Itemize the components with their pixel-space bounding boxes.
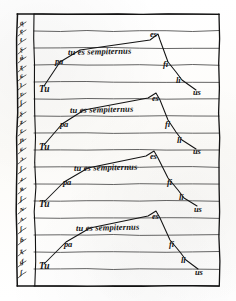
syllable-pa-system-3: pa [63, 178, 71, 187]
staff-rule [34, 133, 219, 134]
staff-rule [34, 269, 219, 270]
syllable-fi-system-4: fi [169, 240, 174, 249]
syllable-us-system-1: us [193, 88, 201, 97]
margin-gloss-mark: ʋ [20, 91, 24, 98]
syllable-tu-system-1: Tu [39, 85, 49, 95]
syllable-us-system-4: us [195, 268, 203, 277]
margin-gloss-mark: ǿ [19, 55, 24, 63]
margin-gloss-mark: ɹ [20, 176, 23, 183]
syllable-li-system-1: li [176, 76, 180, 85]
margin-gloss-mark: ɴ [20, 206, 24, 213]
margin-gloss-mark: ɲ [19, 137, 24, 145]
staff-rule [34, 82, 219, 83]
syllable-li-system-2: li [177, 136, 181, 145]
syllable-tu-system-3: Tu [39, 200, 49, 210]
syllable-es-system-3: es [150, 152, 157, 161]
syllable-es-system-4: es [152, 212, 159, 221]
frame-bottom [17, 286, 219, 287]
frame-top [17, 14, 219, 15]
syllable-fi-system-1: fi [163, 60, 168, 69]
margin-gloss-mark: ʐ [20, 64, 23, 71]
margin-gloss-mark: ʑ [20, 119, 23, 126]
syllable-pa-system-1: pa [55, 57, 63, 66]
syllable-es-system-2: es [152, 94, 159, 103]
phrase-text-system-2: tu es sempiternus [70, 105, 133, 115]
staff-rule [34, 235, 219, 236]
phrase-text-system-1: tu es sempiternus [68, 47, 131, 57]
syllable-es-system-1: es [150, 30, 157, 39]
frame-right [219, 14, 220, 286]
margin-gloss-mark: ɓ [20, 237, 24, 244]
syllable-tu-system-4: Tu [39, 262, 49, 272]
syllable-fi-system-2: fi [165, 120, 170, 129]
margin-gloss-mark: ɠ [19, 259, 24, 267]
margin-gloss-mark: ɕ [20, 146, 24, 153]
melodic-contour-paths [44, 34, 198, 269]
frame-left [16, 14, 18, 286]
syllable-li-system-3: li [179, 193, 183, 202]
staff-rule [34, 218, 219, 219]
syllable-pa-system-4: pa [64, 240, 72, 249]
staff-rule [34, 201, 219, 202]
phrase-text-system-4: tu es sempiternus [76, 223, 139, 233]
syllable-pa-system-2: pa [60, 120, 68, 129]
staff-rule [34, 31, 219, 32]
manuscript-page: tu es sempiternusTupaesfiliustu es sempi… [0, 0, 236, 301]
staff-rule [34, 252, 219, 253]
syllable-us-system-3: us [194, 205, 202, 214]
margin-gloss-mark: ʂ [19, 110, 23, 117]
syllable-li-system-4: li [181, 256, 185, 265]
syllable-tu-system-2: Tu [39, 143, 49, 153]
staff-rule [34, 116, 219, 117]
staff-rule [34, 99, 219, 100]
staff-rule [34, 150, 219, 151]
syllable-fi-system-3: fi [167, 178, 172, 187]
phrase-text-system-3: tu es sempiternus [74, 163, 137, 173]
syllable-us-system-2: us [193, 147, 201, 156]
